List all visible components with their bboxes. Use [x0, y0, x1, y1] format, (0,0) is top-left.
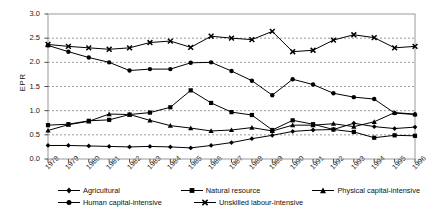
series-unskilled-labour-intensive: [46, 29, 418, 54]
legend-key-square-icon: [181, 186, 203, 195]
legend-label-unskilled-labour-intensive: Unskilled labour-intensive: [219, 198, 303, 207]
legend-row-2: Human capital-intensive Unskilled labour…: [34, 198, 420, 207]
legend-key-x-icon: [194, 198, 216, 207]
legend-key-diamond-icon: [58, 186, 80, 195]
legend-item-human-capital-intensive[interactable]: Human capital-intensive: [58, 198, 194, 207]
legend-row-1: Agricultural Natural resource Physical c…: [34, 186, 420, 195]
legend-item-unskilled-labour-intensive[interactable]: Unskilled labour-intensive: [194, 198, 303, 207]
legend-label-human-capital-intensive: Human capital-intensive: [83, 198, 162, 207]
chart-legend: Agricultural Natural resource Physical c…: [34, 186, 420, 207]
series-human-capital-intensive: [46, 43, 417, 117]
legend-item-natural-resource[interactable]: Natural resource: [181, 186, 313, 195]
legend-item-agricultural[interactable]: Agricultural: [58, 186, 181, 195]
legend-label-natural-resource: Natural resource: [206, 186, 261, 195]
legend-label-physical-capital-intensive: Physical capital-intensive: [337, 186, 420, 195]
legend-key-triangle-icon: [312, 186, 334, 195]
legend-item-physical-capital-intensive[interactable]: Physical capital-intensive: [312, 186, 420, 195]
legend-label-agricultural: Agricultural: [83, 186, 120, 195]
legend-key-circle-icon: [58, 198, 80, 207]
